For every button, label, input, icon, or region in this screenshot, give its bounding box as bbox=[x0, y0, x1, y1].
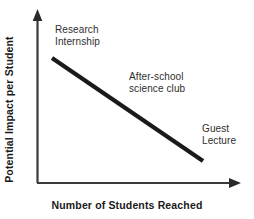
annotation-research-internship-line2: Internship bbox=[55, 36, 100, 48]
annotation-after-school-science-club-line1: After-school bbox=[129, 71, 185, 83]
annotation-research-internship: Research Internship bbox=[55, 24, 100, 47]
annotation-guest-lecture: Guest Lecture bbox=[202, 123, 236, 146]
y-axis-arrowhead-icon bbox=[33, 9, 43, 21]
annotation-after-school-science-club: After-school science club bbox=[129, 71, 185, 94]
annotation-guest-lecture-line2: Lecture bbox=[202, 135, 236, 147]
chart-plot-area bbox=[0, 0, 254, 219]
annotation-guest-lecture-line1: Guest bbox=[202, 123, 236, 135]
x-axis-title: Number of Students Reached bbox=[0, 199, 254, 211]
x-axis-arrowhead-icon bbox=[229, 178, 241, 188]
y-axis-title: Potential Impact per Student bbox=[0, 0, 18, 219]
annotation-research-internship-line1: Research bbox=[55, 24, 100, 36]
impact-vs-reach-chart: Research Internship After-school science… bbox=[0, 0, 254, 219]
annotation-after-school-science-club-line2: science club bbox=[129, 83, 185, 95]
